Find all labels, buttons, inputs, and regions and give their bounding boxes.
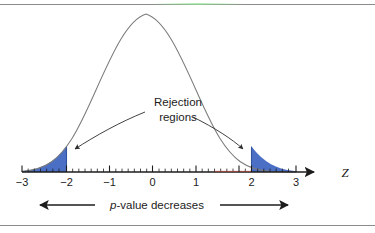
right-rejection-region (252, 147, 297, 172)
normal-curve (22, 14, 296, 172)
rejection-arrow-right (193, 117, 243, 149)
tick-label-neg2: −2 (60, 176, 73, 188)
rejection-regions-label-line2: regions (159, 111, 197, 123)
tick-label-3: 3 (293, 176, 299, 188)
rejection-arrow-left (75, 112, 145, 149)
rejection-regions-label-line1: Rejection (154, 96, 202, 108)
tick-label-neg1: −1 (103, 176, 116, 188)
axis-label-z: Z (341, 165, 349, 180)
p-value-caption: p-value decreases (109, 199, 204, 211)
left-rejection-region (22, 147, 67, 172)
tick-label-1: 1 (193, 176, 199, 188)
normal-distribution-plot: −3 −2 −1 0 1 2 3 Z Rejection regions p-v… (0, 0, 375, 233)
tick-label-0: 0 (149, 176, 155, 188)
tick-label-2: 2 (248, 176, 254, 188)
figure-container: −3 −2 −1 0 1 2 3 Z Rejection regions p-v… (0, 0, 375, 233)
p-value-caption-rest: -value decreases (116, 199, 204, 211)
tick-label-neg3: −3 (16, 176, 29, 188)
